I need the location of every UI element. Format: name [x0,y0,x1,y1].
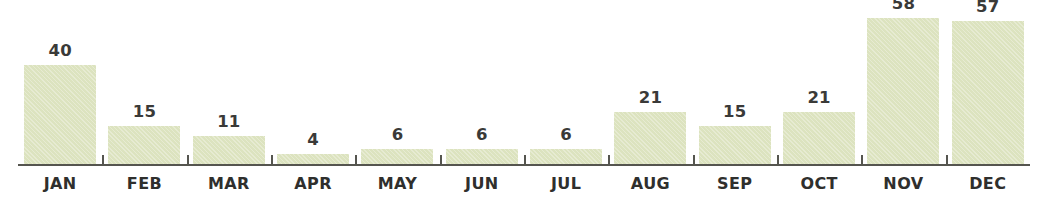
x-axis-line [18,164,1030,166]
x-axis-tick [946,155,948,164]
category-label-jul: JUL [524,172,608,200]
x-axis-tick [187,155,189,164]
category-label-nov: NOV [861,172,945,200]
bar-jan[interactable] [24,65,96,164]
bar-column-apr[interactable]: 4 [271,0,355,164]
bar-value-label: 11 [217,114,240,131]
category-label-may: MAY [355,172,439,200]
x-axis-tick [608,155,610,164]
category-label-jan: JAN [18,172,102,200]
bar-value-label: 57 [976,0,999,15]
bar-value-label: 21 [807,90,830,107]
bar-column-aug[interactable]: 21 [608,0,692,164]
category-label-oct: OCT [777,172,861,200]
bar-nov[interactable] [867,18,939,164]
bar-column-nov[interactable]: 58 [861,0,945,164]
bar-column-oct[interactable]: 21 [777,0,861,164]
bar-value-label: 15 [133,104,156,121]
x-axis-tick [524,155,526,164]
bar-value-label: 6 [560,127,572,144]
x-axis-tick [440,155,442,164]
x-axis-tick [861,155,863,164]
bar-column-jan[interactable]: 40 [18,0,102,164]
bar-value-label: 21 [639,90,662,107]
plot-area: 40 15 11 4 6 [18,0,1030,164]
x-axis-tick [355,155,357,164]
bar-value-label: 58 [892,0,915,12]
bar-column-dec[interactable]: 57 [946,0,1030,164]
x-axis-tick [102,155,104,164]
bar-slot [861,18,945,164]
bar-column-sep[interactable]: 15 [693,0,777,164]
bar-column-jun[interactable]: 6 [440,0,524,164]
x-axis-category-labels: JAN FEB MAR APR MAY JUN JUL AUG SEP OCT … [18,172,1030,200]
category-label-dec: DEC [946,172,1030,200]
bar-chart: 40 15 11 4 6 [0,0,1042,208]
x-axis-tick [271,155,273,164]
x-axis-tick [693,155,695,164]
category-label-apr: APR [271,172,355,200]
bar-value-label: 40 [48,43,71,60]
category-label-feb: FEB [102,172,186,200]
bar-value-label: 6 [476,127,488,144]
bar-value-label: 15 [723,104,746,121]
bar-column-may[interactable]: 6 [355,0,439,164]
x-axis-ticks [18,155,1030,164]
bar-slot [946,21,1030,164]
bar-column-jul[interactable]: 6 [524,0,608,164]
category-label-aug: AUG [608,172,692,200]
category-label-jun: JUN [440,172,524,200]
category-label-sep: SEP [693,172,777,200]
bar-dec[interactable] [952,21,1024,164]
bar-column-mar[interactable]: 11 [187,0,271,164]
bar-column-feb[interactable]: 15 [102,0,186,164]
bar-value-label: 6 [392,127,404,144]
bar-slot [18,65,102,164]
category-label-mar: MAR [187,172,271,200]
x-axis-tick [777,155,779,164]
bar-value-label: 4 [307,132,319,149]
